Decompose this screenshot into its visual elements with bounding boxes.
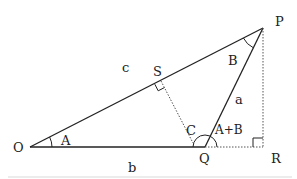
side-a-label: a (235, 92, 243, 107)
triangle-diagram: O Q R P S c a b A B C A+B (0, 0, 297, 179)
angle-AplusB-label: A+B (214, 123, 243, 137)
right-angle-R (253, 138, 263, 147)
side-c-label: c (122, 60, 129, 75)
point-O-label: O (13, 140, 24, 155)
angle-arc-B (243, 38, 253, 48)
side-b-label: b (128, 160, 136, 175)
point-P-label: P (275, 14, 284, 29)
angle-arc-Q (193, 135, 217, 147)
right-angle-S (155, 84, 165, 91)
point-S-label: S (153, 64, 162, 79)
point-R-label: R (271, 151, 282, 166)
angle-C-label: C (186, 123, 196, 138)
angle-arc-A (50, 137, 52, 147)
angle-B-label: B (228, 53, 238, 68)
angle-A-label: A (60, 133, 71, 148)
point-Q-label: Q (199, 151, 210, 166)
